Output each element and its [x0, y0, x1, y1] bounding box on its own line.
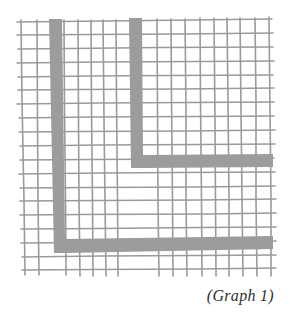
graph-figure: (Graph 1): [0, 0, 290, 314]
grid-paper: [0, 0, 290, 314]
outer-L-path: [49, 19, 273, 253]
graph-caption: (Graph 1): [207, 287, 274, 305]
